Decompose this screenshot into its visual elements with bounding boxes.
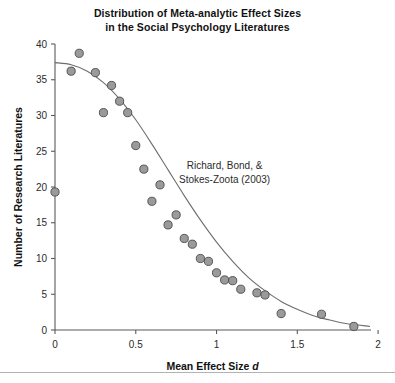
y-tick-label-15: 15 (36, 217, 48, 228)
data-point (67, 67, 75, 75)
data-point (229, 277, 237, 285)
y-tick-label-25: 25 (36, 146, 48, 157)
data-point (164, 221, 172, 229)
data-point (212, 269, 220, 277)
x-tick-label-0.5: 0.5 (129, 339, 143, 350)
y-tick-label-20: 20 (36, 182, 48, 193)
data-point (91, 69, 99, 77)
annotation-line-1: Richard, Bond, & (187, 160, 263, 171)
y-tick-label-35: 35 (36, 74, 48, 85)
x-tick-label-0: 0 (52, 339, 58, 350)
y-axis-title: Number of Research Literatures (12, 107, 24, 267)
data-point (51, 188, 59, 196)
data-point (148, 197, 156, 205)
data-point (124, 109, 132, 117)
y-tick-label-5: 5 (41, 289, 47, 300)
data-point (188, 240, 196, 248)
data-point (350, 322, 358, 330)
x-tick-label-1.5: 1.5 (290, 339, 304, 350)
y-tick-label-0: 0 (41, 325, 47, 336)
data-point (261, 291, 269, 299)
data-point (237, 285, 245, 293)
chart-canvas: 051015202530354000.511.52Number of Resea… (0, 0, 395, 383)
data-point (116, 97, 124, 105)
data-point (277, 309, 285, 317)
fitted-curve (55, 63, 370, 327)
data-point (253, 289, 261, 297)
annotation-line-2: Stokes-Zoota (2003) (179, 174, 270, 185)
data-point (317, 310, 325, 318)
data-point (204, 257, 212, 265)
data-point (107, 81, 115, 89)
data-point (196, 254, 204, 262)
chart-figure: Distribution of Meta-analytic Effect Siz… (0, 0, 395, 383)
data-point (99, 109, 107, 117)
x-tick-label-1: 1 (214, 339, 220, 350)
data-point (140, 165, 148, 173)
data-point (172, 211, 180, 219)
x-tick-label-2: 2 (375, 339, 381, 350)
data-point (132, 141, 140, 149)
x-axis-title: Mean Effect Size d (166, 360, 259, 372)
data-point (180, 234, 188, 242)
data-point (156, 181, 164, 189)
y-tick-label-30: 30 (36, 110, 48, 121)
y-tick-label-10: 10 (36, 253, 48, 264)
data-point (75, 49, 83, 57)
data-point (221, 276, 229, 284)
y-tick-label-40: 40 (36, 39, 48, 50)
